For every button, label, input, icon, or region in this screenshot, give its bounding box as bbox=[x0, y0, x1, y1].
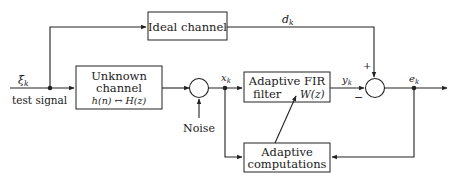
test-signal-caption: test signal bbox=[12, 94, 68, 106]
error-feedback-line bbox=[332, 88, 414, 157]
error-summing-junction bbox=[366, 79, 385, 98]
adaptive-filter-line2: filter bbox=[253, 87, 282, 101]
unknown-channel-transfer: h(n) ↔ H(z) bbox=[92, 95, 147, 106]
adaptive-filter-transfer: W(z) bbox=[300, 88, 325, 100]
diagram-svg: Ideal channel dk Unknown channel h(n) ↔ … bbox=[0, 0, 457, 182]
adaptive-filter-line1: Adaptive FIR bbox=[248, 74, 326, 88]
unknown-channel-line2: channel bbox=[96, 81, 142, 95]
e-label: ek bbox=[409, 73, 419, 86]
plus-sign: + bbox=[363, 60, 371, 71]
x-label: xk bbox=[221, 72, 231, 85]
block-diagram: Ideal channel dk Unknown channel h(n) ↔ … bbox=[0, 0, 457, 182]
d-label: dk bbox=[282, 13, 294, 27]
noise-label: Noise bbox=[183, 122, 215, 135]
desired-signal-line bbox=[227, 27, 374, 77]
input-symbol-label: ξk bbox=[18, 74, 29, 88]
minus-sign: − bbox=[354, 91, 363, 104]
ideal-channel-label: Ideal channel bbox=[148, 20, 227, 34]
x-to-computations-line bbox=[225, 88, 242, 157]
noise-summing-junction bbox=[190, 79, 209, 98]
adaptive-computations-line2: computations bbox=[247, 157, 326, 171]
weight-update-arrow bbox=[275, 96, 296, 143]
y-label: yk bbox=[341, 74, 352, 87]
